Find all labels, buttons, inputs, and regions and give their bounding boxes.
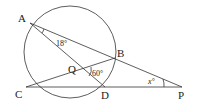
angle-label-60: 60° xyxy=(92,69,103,78)
label-d: D xyxy=(101,89,109,101)
label-p: P xyxy=(178,89,184,101)
diagram-svg: A B Q C D P 18° 60° x° xyxy=(0,0,200,112)
angle-arc-p xyxy=(163,79,164,87)
angle-arc-a xyxy=(42,29,44,33)
angle-label-x: x° xyxy=(147,77,156,86)
label-b: B xyxy=(117,47,124,59)
angle-label-18: 18° xyxy=(56,39,67,48)
label-a: A xyxy=(18,12,26,24)
geometry-diagram: A B Q C D P 18° 60° x° xyxy=(0,0,200,112)
label-q: Q xyxy=(68,63,76,75)
line-a-p xyxy=(30,23,182,87)
label-c: C xyxy=(15,88,22,100)
